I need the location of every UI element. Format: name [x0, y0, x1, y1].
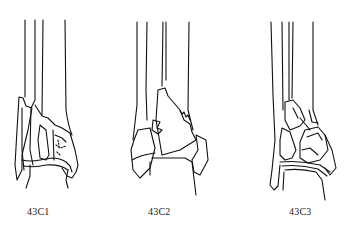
tibia-shaft-43c2 [162, 22, 193, 130]
figure-drawing [0, 0, 352, 234]
panel-label-43c2: 43C2 [148, 206, 170, 217]
wedge-fragment-43c2 [156, 88, 196, 155]
talus-43c3 [280, 161, 330, 200]
drawing-43c2 [131, 22, 208, 195]
fracture-line-43c1 [35, 105, 70, 133]
drawing-43c3 [270, 22, 336, 200]
fracture-classification-figure: 43C1 43C2 43C3 [0, 0, 352, 234]
comminuted-fragment-43c3 [285, 100, 305, 130]
talus-43c2 [150, 158, 196, 195]
panel-label-43c3: 43C3 [289, 206, 311, 217]
comminuted-fragment-43c3 [300, 127, 328, 163]
drawing-43c1 [15, 20, 78, 188]
fibula-43c3 [270, 22, 283, 190]
fibula-43c2 [133, 22, 147, 140]
panel-label-43c1: 43C1 [27, 206, 49, 217]
fibula-43c1 [25, 20, 35, 165]
